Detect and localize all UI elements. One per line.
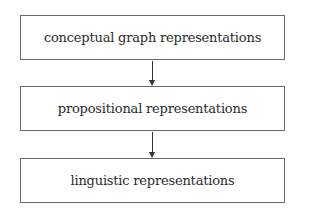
node-label: conceptual graph representations (44, 30, 261, 45)
node-label: linguistic representations (71, 173, 235, 188)
node-label: propositional representations (58, 101, 247, 116)
node-linguistic-representations: linguistic representations (20, 158, 285, 203)
node-conceptual-graph-representations: conceptual graph representations (20, 15, 285, 60)
node-propositional-representations: propositional representations (20, 86, 285, 131)
arrow-down-icon (152, 132, 153, 157)
arrow-down-icon (152, 61, 153, 85)
